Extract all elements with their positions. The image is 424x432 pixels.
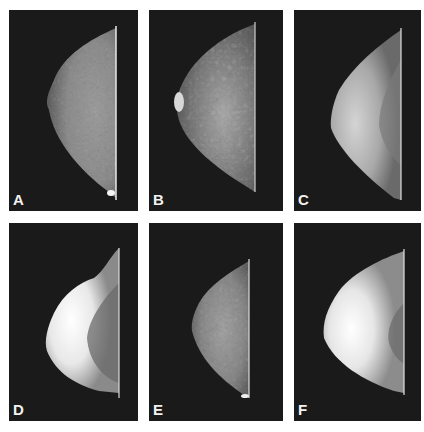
breast-image-c: [294, 10, 421, 211]
mammogram-panel-c: C: [294, 10, 421, 211]
breast-image-a: [9, 10, 138, 211]
panel-label: B: [153, 192, 164, 207]
mammogram-panel-e: E: [149, 223, 283, 421]
panel-label: C: [298, 192, 309, 207]
breast-image-b: [149, 10, 283, 211]
breast-image-e: [149, 223, 283, 421]
breast-image-d: [9, 223, 138, 421]
panel-label: D: [13, 402, 24, 417]
mammogram-panel-f: F: [294, 223, 421, 421]
panel-label: F: [298, 402, 307, 417]
mammogram-panel-a: A: [9, 10, 138, 211]
mammogram-panel-b: B: [149, 10, 283, 211]
panel-label: E: [153, 402, 163, 417]
panel-label: A: [13, 192, 24, 207]
breast-image-f: [294, 223, 421, 421]
mammogram-panel-d: D: [9, 223, 138, 421]
